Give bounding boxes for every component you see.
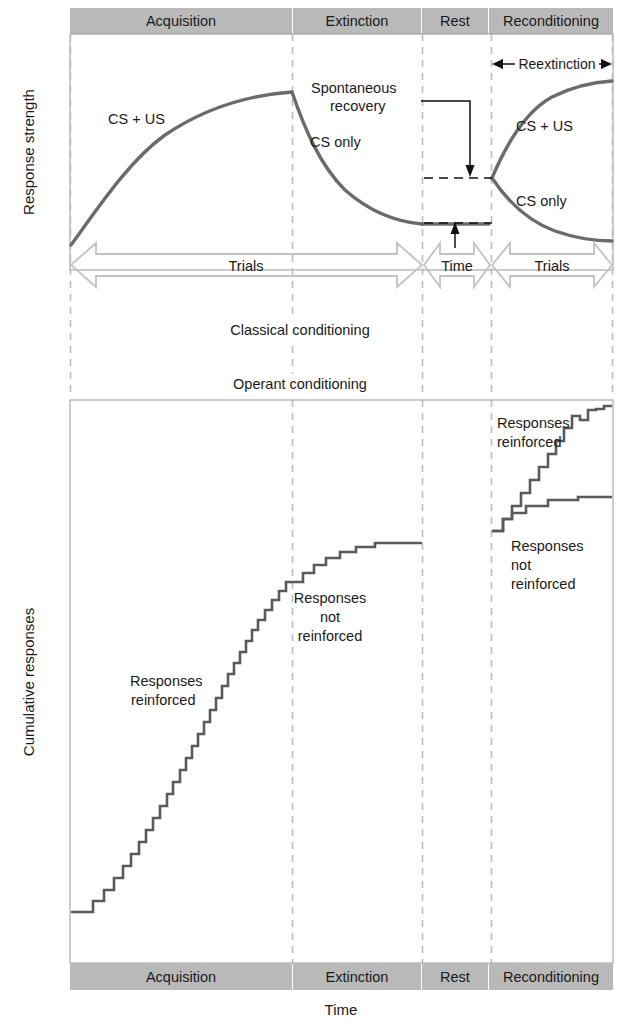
annotation-reextinction: Reextinction	[518, 56, 595, 72]
axis-arrow-label-trials-1: Trials	[229, 258, 264, 274]
spontaneous-recovery-elbow	[421, 101, 470, 165]
bottom-phase-label-reconditioning: Reconditioning	[503, 969, 599, 985]
top-phase-label-acquisition: Acquisition	[146, 13, 216, 29]
figure-canvas: Acquisition Extinction Rest Reconditioni…	[0, 0, 636, 1028]
bottom-label-acquisition: Responses reinforced	[130, 673, 203, 708]
step-extinction-not-reinforced	[293, 543, 422, 582]
label-classical-conditioning: Classical conditioning	[230, 322, 369, 338]
step-reextinction-not-reinforced	[492, 497, 612, 531]
bottom-label-reconditioning: Responses reinforced	[497, 415, 570, 450]
bottom-label-ext-line1: Responses	[294, 590, 367, 606]
bottom-label-reext-line1: Responses	[511, 538, 584, 554]
label-cs-us-reconditioning: CS + US	[516, 118, 573, 134]
rest-reference-levels	[424, 178, 492, 223]
bottom-label-ext-line2: not	[320, 609, 340, 625]
annotation-spontaneous-line2: recovery	[330, 98, 386, 114]
spontaneous-recovery-connector	[421, 101, 470, 165]
bottom-label-recon-line2: reinforced	[497, 434, 561, 450]
label-cs-us-acquisition: CS + US	[108, 111, 165, 127]
bottom-step-group	[71, 406, 612, 912]
top-phase-label-rest: Rest	[440, 13, 470, 29]
top-phase-bar: Acquisition Extinction Rest Reconditioni…	[70, 8, 613, 34]
bottom-label-reext-line3: reinforced	[511, 576, 575, 592]
bottom-phase-label-extinction: Extinction	[326, 969, 389, 985]
bottom-label-extinction: Responses not reinforced	[294, 590, 367, 644]
top-phase-label-extinction: Extinction	[326, 13, 389, 29]
top-y-axis-label: Response strength	[20, 89, 37, 215]
bottom-label-acq-line1: Responses	[130, 673, 203, 689]
bottom-phase-bar: Acquisition Extinction Rest Reconditioni…	[70, 963, 613, 990]
step-acquisition-reinforced	[71, 582, 293, 912]
bottom-label-recon-line1: Responses	[497, 415, 570, 431]
spontaneous-recovery-arrowhead-down	[466, 165, 475, 177]
bottom-x-axis-label: Time	[325, 1001, 358, 1018]
curve-acquisition-cs-us	[71, 92, 292, 245]
label-operant-conditioning: Operant conditioning	[233, 376, 367, 392]
reextinction-arrowhead-right	[601, 59, 612, 69]
label-cs-only-extinction: CS only	[310, 134, 362, 150]
conditioning-figure: Acquisition Extinction Rest Reconditioni…	[0, 0, 636, 1028]
bottom-label-reext-line2: not	[511, 557, 531, 573]
top-phase-label-reconditioning: Reconditioning	[503, 13, 599, 29]
bottom-label-reextinction: Responses not reinforced	[511, 538, 584, 592]
bottom-phase-label-rest: Rest	[440, 969, 470, 985]
axis-block-arrow-group	[71, 243, 612, 287]
axis-arrow-label-trials-2: Trials	[535, 258, 570, 274]
bottom-phase-label-acquisition: Acquisition	[146, 969, 216, 985]
bottom-label-acq-line2: reinforced	[131, 692, 195, 708]
reextinction-arrowhead-left	[492, 59, 503, 69]
bottom-y-axis-label: Cumulative responses	[20, 608, 37, 756]
label-cs-only-reextinction: CS only	[516, 193, 568, 209]
curve-reextinction-cs-only	[492, 178, 612, 241]
axis-arrow-label-time: Time	[441, 258, 473, 274]
annotation-spontaneous-line1: Spontaneous	[311, 80, 396, 96]
reextinction-arrow: Reextinction	[492, 55, 612, 73]
bottom-label-ext-line3: reinforced	[298, 628, 362, 644]
